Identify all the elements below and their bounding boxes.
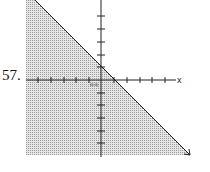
inequality-graph: x (0,0) <box>0 0 210 172</box>
x-axis-label: x <box>177 75 182 85</box>
origin-label: (0,0) <box>90 82 99 87</box>
